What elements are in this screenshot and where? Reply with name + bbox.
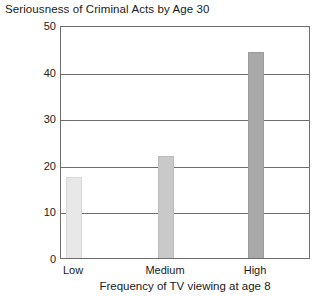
plot-area (60, 26, 310, 259)
x-axis-title: Frequency of TV viewing at age 8 (60, 279, 310, 293)
x-tick-label-high: High (215, 263, 295, 277)
bar-high (248, 52, 264, 258)
y-tick-label-30: 30 (4, 114, 56, 125)
x-tick-label-low: Low (33, 263, 113, 277)
x-tick-label-medium: Medium (125, 263, 205, 277)
y-tick-label-20: 20 (4, 161, 56, 172)
bars-layer (61, 27, 309, 258)
y-tick-label-40: 40 (4, 68, 56, 79)
y-tick-label-10: 10 (4, 207, 56, 218)
y-axis: 50 40 30 20 10 0 (0, 0, 56, 296)
bar-medium (158, 156, 174, 258)
bar-low (66, 177, 82, 258)
y-tick-label-50: 50 (4, 21, 56, 32)
bar-chart: Seriousness of Criminal Acts by Age 30 5… (0, 0, 325, 296)
